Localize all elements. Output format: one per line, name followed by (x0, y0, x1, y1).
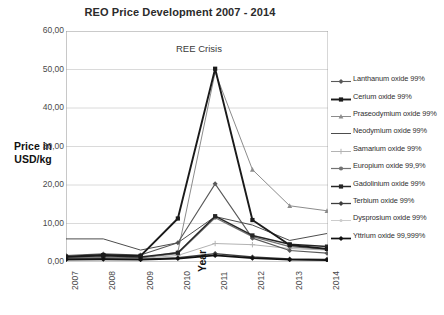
legend-label: Terbium oxide 99% (353, 196, 414, 205)
data-point-marker (339, 201, 344, 206)
legend-item[interactable]: Dysprosium oxide 99% (331, 209, 444, 226)
data-point-marker (213, 214, 217, 218)
legend-item[interactable]: Samarium oxide 99% (331, 140, 444, 157)
data-point-marker (339, 167, 343, 171)
legend-item[interactable]: Europium oxide 99,9% (331, 157, 444, 174)
y-axis-tick-labels: 0,0010,0020,0030,0040,0050,0060,00 (18, 31, 64, 262)
ree-crisis-annotation: REE Crisis (176, 43, 222, 54)
legend-item[interactable]: Neodymium oxide 99% (331, 122, 444, 139)
y-tick-label: 60,00 (24, 25, 64, 35)
legend-swatch-icon (331, 178, 351, 189)
legend-label: Gadolinium oxide 99% (353, 179, 425, 188)
legend-swatch-icon (331, 125, 351, 136)
legend-label: Yttrium oxide 99,999% (353, 231, 425, 240)
x-tick-label: 2012 (256, 271, 266, 290)
legend-label: Neodymium oxide 99% (353, 126, 427, 135)
data-point-marker (338, 149, 343, 154)
y-tick-label: 20,00 (24, 179, 64, 189)
data-point-marker (176, 216, 180, 220)
x-tick-label: 2009 (145, 271, 155, 290)
legend-item[interactable]: Lanthanum oxide 99% (331, 70, 444, 87)
chart-legend: Lanthanum oxide 99%Cerium oxide 99%Prase… (331, 70, 444, 244)
legend-label: Dysprosium oxide 99% (353, 213, 427, 222)
data-point-marker (325, 247, 328, 251)
data-point-marker (339, 97, 343, 101)
data-point-marker (288, 243, 292, 247)
legend-label: Samarium oxide 99% (353, 144, 421, 153)
plot-area (66, 31, 328, 262)
legend-item[interactable]: Gadolinium oxide 99% (331, 174, 444, 191)
data-point-marker (339, 236, 344, 241)
legend-item[interactable]: Cerium oxide 99% (331, 87, 444, 104)
data-point-marker (176, 251, 180, 255)
legend-item[interactable]: Praseodymium oxide 99% (331, 105, 444, 122)
x-tick-label: 2007 (70, 271, 80, 290)
legend-swatch-icon (331, 108, 351, 119)
y-tick-label: 0,00 (24, 256, 64, 266)
legend-item[interactable]: Yttrium oxide 99,999% (331, 227, 444, 244)
plot-svg (66, 31, 328, 262)
legend-swatch-icon (331, 91, 351, 102)
data-point-marker (250, 218, 254, 222)
chart-container: REO Price Development 2007 - 2014 Price … (0, 0, 444, 315)
legend-swatch-icon (331, 230, 351, 241)
data-point-marker (213, 67, 217, 71)
x-axis-title: Year (196, 250, 208, 272)
chart-title: REO Price Development 2007 - 2014 (0, 6, 360, 18)
legend-swatch-icon (331, 143, 351, 154)
x-tick-label: 2014 (331, 271, 341, 290)
legend-swatch-icon (331, 212, 351, 223)
legend-label: Europium oxide 99,9% (353, 161, 425, 170)
data-point-marker (339, 79, 344, 84)
data-point-marker (250, 233, 254, 237)
data-point-marker (340, 219, 343, 222)
y-tick-label: 40,00 (24, 102, 64, 112)
data-point-marker (101, 253, 105, 257)
x-tick-label: 2010 (182, 271, 192, 290)
x-tick-label: 2008 (107, 271, 117, 290)
legend-item[interactable]: Terbium oxide 99% (331, 192, 444, 209)
legend-label: Lanthanum oxide 99% (353, 74, 425, 83)
legend-swatch-icon (331, 73, 351, 84)
legend-swatch-icon (331, 160, 351, 171)
data-point-marker (339, 184, 343, 188)
legend-label: Cerium oxide 99% (353, 92, 412, 101)
x-tick-label: 2013 (294, 271, 304, 290)
y-tick-label: 50,00 (24, 64, 64, 74)
y-tick-label: 30,00 (24, 141, 64, 151)
legend-label: Praseodymium oxide 99% (353, 109, 437, 118)
legend-swatch-icon (331, 195, 351, 206)
y-tick-label: 10,00 (24, 218, 64, 228)
x-tick-label: 2011 (219, 272, 229, 290)
